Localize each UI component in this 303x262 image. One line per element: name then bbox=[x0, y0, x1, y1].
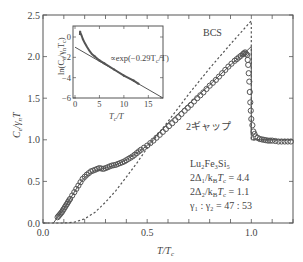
gap1-ratio-label: 2Δ₁/kBTc = 4.4 bbox=[190, 172, 249, 185]
gap2-ratio-label: 2Δ₂/kBTc = 1.1 bbox=[190, 186, 249, 199]
y-tick-label: 2.0 bbox=[28, 51, 41, 62]
inset-y-tick-label: −6 bbox=[62, 93, 71, 103]
inset-fit-label: ∝exp(−0.29Tc/T) bbox=[110, 53, 169, 64]
y-tick-label: 1.5 bbox=[28, 93, 41, 104]
x-tick-label: 0.0 bbox=[37, 227, 50, 238]
gamma-ratio-label: γ₁ : γ₂ = 47 : 53 bbox=[189, 200, 252, 211]
two-gap-label: 2ギャップ bbox=[186, 121, 231, 132]
inset-x-tick-label: 15 bbox=[144, 99, 153, 109]
inset-y-axis-label: ln(Ce/γnTc) bbox=[56, 37, 67, 75]
y-tick-label: 0.5 bbox=[28, 176, 41, 187]
y-axis-title: Ce/γnT bbox=[11, 111, 24, 138]
inset-x-tick-label: 10 bbox=[120, 99, 129, 109]
compound-label: Lu₂Fe₃Si₅ bbox=[190, 158, 230, 169]
y-tick-label: 1.0 bbox=[28, 134, 41, 145]
inset-x-tick-label: 5 bbox=[97, 99, 101, 109]
x-tick-label: 1.0 bbox=[245, 227, 258, 238]
y-tick-label: 2.5 bbox=[28, 10, 41, 21]
y-tick-label: 0.0 bbox=[28, 218, 41, 229]
inset-x-axis-label: Tc/T bbox=[109, 111, 125, 122]
inset-y-tick-label: 0 bbox=[67, 32, 71, 42]
x-axis-title: T/Tc bbox=[157, 245, 175, 258]
x-tick-label: 0.5 bbox=[141, 227, 154, 238]
specific-heat-chart: 0.00.51.00.00.51.01.52.02.5 0510150−2−4−… bbox=[0, 0, 303, 262]
bcs-label: BCS bbox=[203, 27, 222, 38]
inset-x-tick-label: 0 bbox=[73, 99, 77, 109]
